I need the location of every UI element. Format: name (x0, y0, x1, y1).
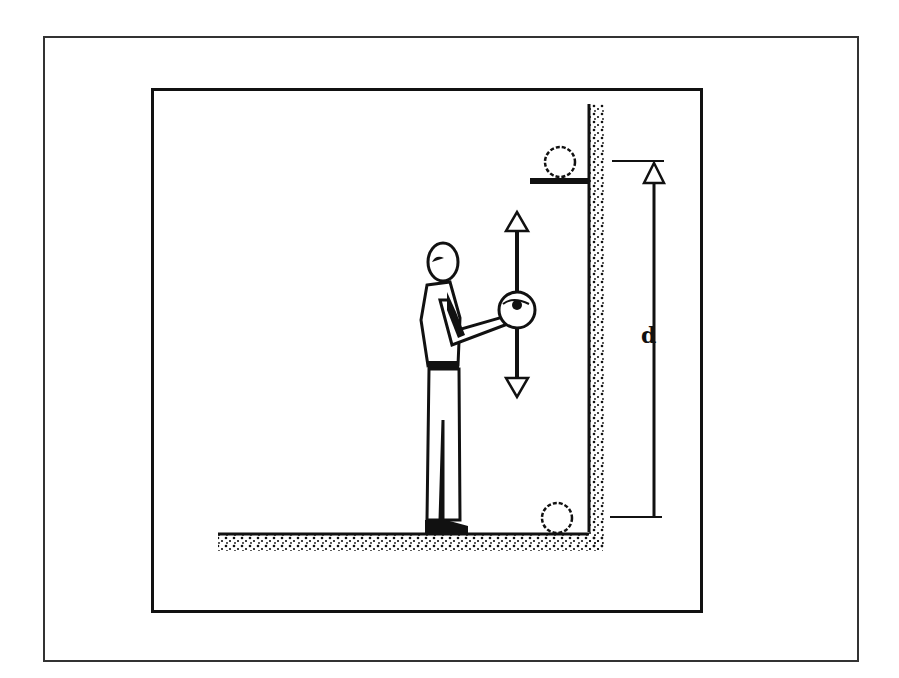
wall (589, 104, 605, 550)
ball-on-shelf (545, 147, 575, 177)
person (421, 243, 510, 534)
shelf (530, 178, 589, 184)
floor (218, 534, 603, 551)
ball-on-floor (542, 503, 572, 533)
physics-diagram (0, 0, 899, 678)
height-label-d: d (641, 322, 656, 348)
ball-in-hands (499, 292, 535, 328)
